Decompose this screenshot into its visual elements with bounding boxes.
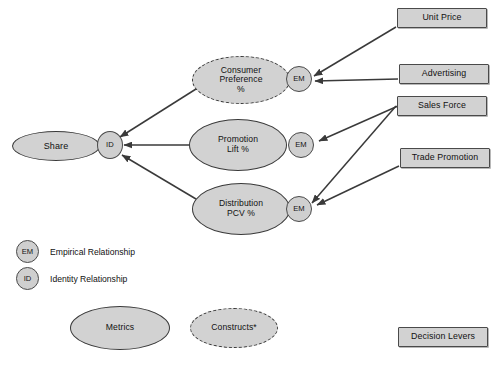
lever-sales-force-label: Sales Force [418, 101, 466, 111]
legend-shape-constructs-label: Constructs* [211, 323, 257, 333]
lever-unit-price-label: Unit Price [422, 13, 461, 23]
legend-shape-metrics: Metrics [70, 306, 170, 350]
node-consumer-preference-label: Consumer Preference % [219, 66, 262, 95]
tag-em-distribution-label: EM [293, 205, 305, 214]
legend-tag-empirical: EM [16, 240, 39, 263]
lever-advertising[interactable]: Advertising [399, 64, 489, 84]
lever-sales-force[interactable]: Sales Force [397, 96, 487, 116]
lever-unit-price[interactable]: Unit Price [397, 8, 487, 28]
legend-row-identity: ID Identity Relationship [16, 267, 127, 290]
legend-label-identity: Identity Relationship [50, 274, 127, 284]
tag-em-promotion[interactable]: EM [288, 132, 314, 158]
legend-shape-decision-levers-label: Decision Levers [411, 332, 475, 342]
lever-trade-promotion[interactable]: Trade Promotion [400, 148, 490, 168]
edge-consumer-preference-to-identity [120, 89, 196, 137]
node-share[interactable]: Share [12, 131, 100, 161]
tag-em-promotion-label: EM [295, 141, 307, 150]
diagram-canvas: Share ID Consumer Preference % EM Promot… [0, 0, 498, 367]
node-distribution-pcv-label: Distribution PCV % [219, 199, 263, 218]
edge-sales-force-to-em-promotion [319, 106, 398, 141]
edge-advertising-to-em-consumer [315, 79, 398, 81]
legend-tag-identity: ID [16, 267, 39, 290]
tag-em-consumer[interactable]: EM [286, 66, 312, 92]
legend-tag-identity-text: ID [24, 274, 32, 283]
edge-sales-force-to-em-distribution [312, 106, 396, 203]
legend-tag-empirical-text: EM [22, 247, 33, 256]
lever-trade-promotion-label: Trade Promotion [412, 153, 479, 163]
legend-shape-decision-levers: Decision Levers [398, 327, 488, 347]
node-identity-label: ID [106, 141, 114, 150]
edge-unit-price-to-em-consumer [314, 27, 396, 76]
legend-label-empirical: Empirical Relationship [50, 247, 135, 257]
node-consumer-preference[interactable]: Consumer Preference % [192, 56, 290, 104]
edge-trade-promotion-to-em-distribution [317, 166, 399, 205]
node-promotion-lift[interactable]: Promotion Lift % [189, 119, 287, 171]
node-promotion-lift-label: Promotion Lift % [218, 135, 258, 154]
edge-distribution-pcv-to-identity [122, 155, 196, 199]
lever-advertising-label: Advertising [422, 69, 467, 79]
node-share-label: Share [44, 141, 69, 151]
legend-shape-metrics-label: Metrics [106, 323, 134, 333]
legend-shape-constructs: Constructs* [190, 308, 278, 348]
legend-row-empirical: EM Empirical Relationship [16, 240, 135, 263]
tag-em-consumer-label: EM [293, 75, 305, 84]
tag-em-distribution[interactable]: EM [286, 196, 312, 222]
node-identity[interactable]: ID [97, 131, 123, 159]
node-distribution-pcv[interactable]: Distribution PCV % [192, 183, 290, 235]
